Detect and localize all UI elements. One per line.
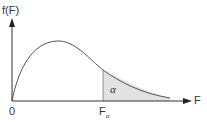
critical-value-label: Fα <box>99 106 109 120</box>
density-curve <box>12 41 170 101</box>
y-axis-label: f(F) <box>2 5 19 16</box>
critical-value-subscript: α <box>106 112 110 120</box>
x-axis-arrow-icon <box>183 98 192 104</box>
f-distribution-plot <box>0 0 207 122</box>
area-label: α <box>110 84 116 95</box>
x-axis-label: F <box>194 95 201 106</box>
origin-label: 0 <box>9 106 15 117</box>
y-axis-arrow-icon <box>9 18 15 27</box>
critical-value-symbol: F <box>99 105 106 117</box>
